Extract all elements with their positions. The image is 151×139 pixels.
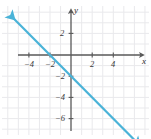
graph-figure: −4 −2 2 4 2 −2 −4 −6 x y — [0, 0, 151, 139]
x-tick-label-pos2: 2 — [90, 60, 94, 69]
y-axis-label: y — [74, 6, 78, 15]
y-tick-label-neg6: −6 — [55, 114, 65, 123]
x-axis-label: x — [142, 57, 146, 66]
y-tick-label-neg4: −4 — [55, 93, 65, 102]
plotted-line — [12, 17, 138, 139]
x-tick-label-neg2: −2 — [45, 60, 55, 69]
y-tick-label-neg2: −2 — [55, 72, 65, 81]
grid-vertical-lines — [8, 6, 145, 135]
x-tick-label-neg4: −4 — [24, 60, 34, 69]
coordinate-plane — [0, 0, 151, 139]
y-tick-label-pos2: 2 — [60, 29, 64, 38]
x-tick-label-pos4: 4 — [111, 60, 115, 69]
